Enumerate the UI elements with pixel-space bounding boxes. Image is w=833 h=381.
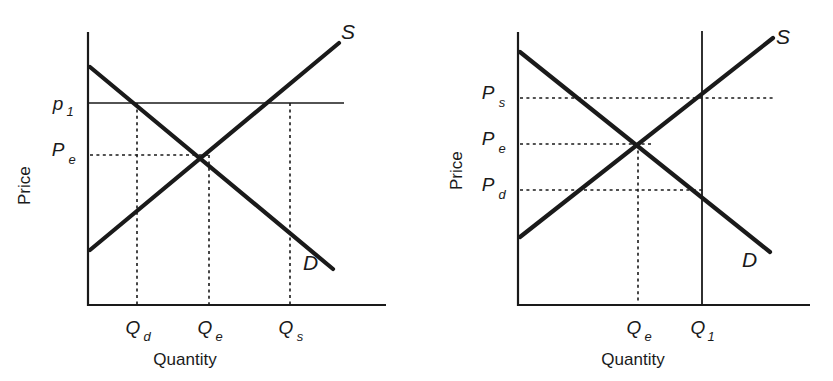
right-qty-tick-qe-sub: e	[644, 329, 651, 344]
right-price-tick-ps: P s	[482, 82, 506, 110]
right-qty-tick-q1: Q 1	[691, 317, 715, 344]
left-qty-tick-qe-sub: e	[215, 329, 222, 344]
left-price-tick-pe-sub: e	[68, 152, 75, 167]
right-price-tick-pe-base: P	[482, 128, 495, 149]
left-chart-panel: S D Price Quantity p 1 P e Q d Q e	[0, 0, 420, 381]
left-qty-tick-qs-base: Q	[279, 317, 294, 338]
left-price-tick-p1: p 1	[52, 93, 74, 119]
left-y-axis-title: Price	[15, 166, 34, 205]
left-qty-tick-qd-sub: d	[143, 329, 151, 344]
left-axes	[87, 32, 386, 306]
left-qty-tick-qd-base: Q	[126, 317, 141, 338]
left-qty-tick-qd: Q d	[126, 317, 152, 344]
right-supply-label: S	[776, 25, 790, 48]
left-price-tick-pe: P e	[52, 139, 76, 167]
right-x-axis-title: Quantity	[601, 350, 665, 369]
right-price-tick-pd-sub: d	[498, 187, 506, 202]
left-price-tick-p1-sub: 1	[66, 104, 73, 119]
right-qty-tick-qe-base: Q	[627, 317, 642, 338]
right-price-tick-pd: P d	[482, 174, 507, 202]
right-qty-tick-qe: Q e	[627, 317, 652, 344]
supply-demand-figure-pair: S D Price Quantity p 1 P e Q d Q e	[0, 0, 833, 381]
right-price-tick-ps-base: P	[482, 82, 495, 103]
right-supply-curve	[520, 38, 773, 237]
left-qty-tick-qs: Q s	[279, 317, 304, 344]
left-qty-tick-qs-sub: s	[297, 329, 304, 344]
right-chart-panel: S D Price Quantity P s P e P d Q e	[420, 0, 833, 381]
right-price-tick-pd-base: P	[482, 174, 495, 195]
right-price-tick-pe-sub: e	[498, 141, 505, 156]
right-qty-tick-q1-sub: 1	[707, 329, 714, 344]
left-x-axis-title: Quantity	[153, 350, 217, 369]
right-demand-label: D	[742, 248, 757, 271]
right-qty-tick-q1-base: Q	[691, 317, 706, 338]
left-demand-curve	[90, 67, 333, 269]
left-qty-tick-qe: Q e	[198, 317, 223, 344]
right-price-tick-ps-sub: s	[499, 95, 506, 110]
left-qty-tick-qe-base: Q	[198, 317, 213, 338]
right-price-tick-pe: P e	[482, 128, 506, 156]
left-supply-curve	[90, 43, 339, 250]
right-y-axis-title: Price	[447, 151, 466, 190]
left-supply-label: S	[341, 20, 355, 43]
left-price-tick-p1-base: p	[52, 93, 64, 114]
left-price-tick-pe-base: P	[52, 139, 65, 160]
right-demand-curve	[520, 52, 770, 252]
left-demand-label: D	[303, 251, 318, 274]
left-chart-svg: S D Price Quantity p 1 P e Q d Q e	[0, 0, 420, 381]
right-chart-svg: S D Price Quantity P s P e P d Q e	[420, 0, 833, 381]
